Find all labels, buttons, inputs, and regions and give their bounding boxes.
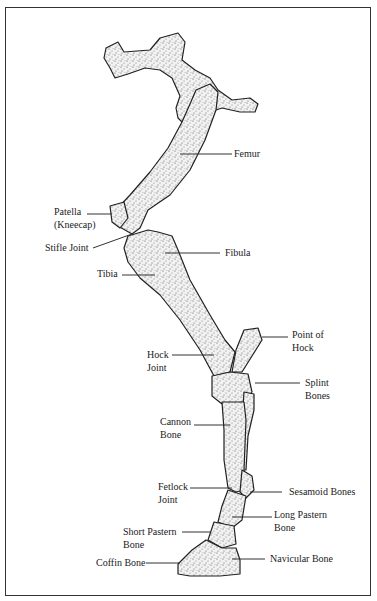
point-of-hock-bone [232, 328, 262, 372]
long-pastern-bone [218, 490, 246, 528]
label-patella: Patella [54, 206, 81, 218]
label-fetlock-joint: Fetlock [158, 481, 188, 493]
label-hock: Hock [292, 342, 314, 354]
label-hock-joint: Hock [147, 349, 169, 361]
label-hock-joint-2: Joint [147, 362, 166, 374]
label-stifle-joint: Stifle Joint [45, 242, 89, 254]
label-navicular-bone: Navicular Bone [270, 553, 333, 565]
label-short-pastern-2: Bone [123, 539, 144, 551]
femur-bone [116, 84, 218, 234]
label-cannon-bone: Cannon [160, 416, 191, 428]
label-kneecap: (Kneecap) [54, 219, 96, 231]
label-sesamoid-bones: Sesamoid Bones [289, 486, 355, 498]
label-fetlock-joint-2: Joint [158, 494, 177, 506]
label-femur: Femur [234, 148, 260, 160]
label-tibia: Tibia [97, 268, 118, 280]
label-point-of-hock: Point of [292, 329, 324, 341]
sesamoid-bone [240, 470, 254, 498]
label-splint-bones-2: Bones [305, 390, 330, 402]
label-cannon-bone-2: Bone [160, 429, 181, 441]
label-long-pastern: Long Pastern [274, 509, 327, 521]
pelvis-bone [104, 33, 258, 124]
label-fibula: Fibula [225, 247, 251, 259]
label-long-pastern-2: Bone [274, 522, 295, 534]
label-short-pastern: Short Pastern [123, 526, 177, 538]
label-splint-bones: Splint [305, 377, 329, 389]
label-coffin-bone: Coffin Bone [96, 557, 146, 569]
tibia-bone [124, 230, 235, 376]
